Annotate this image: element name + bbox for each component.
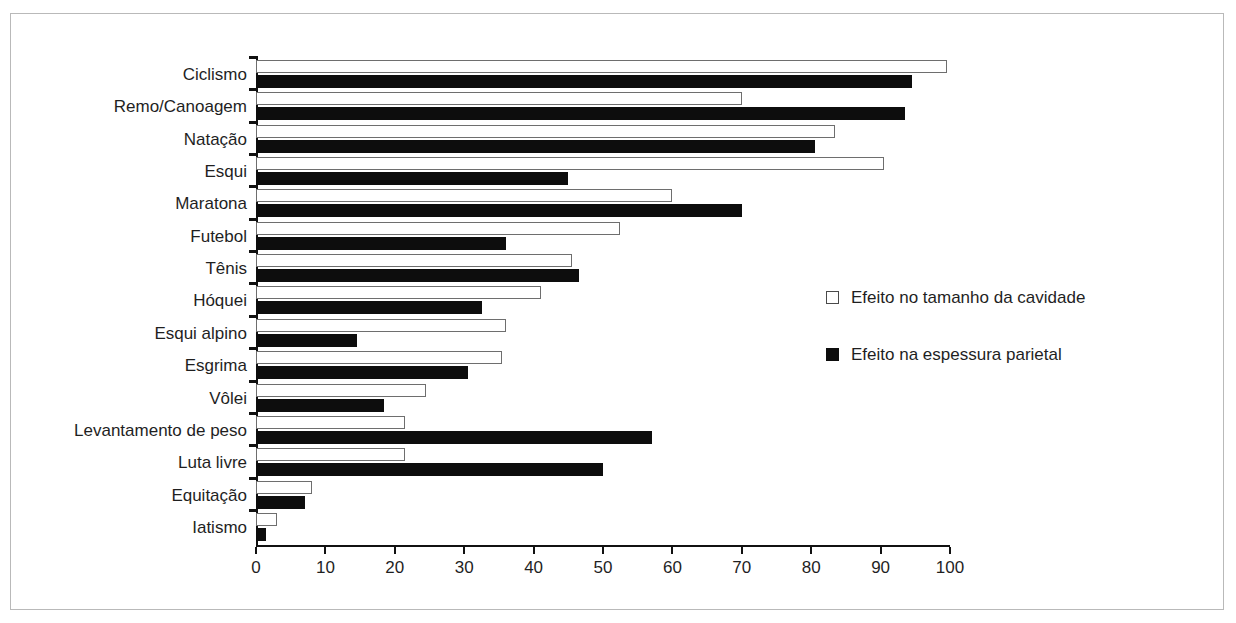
x-axis-tick	[255, 547, 257, 554]
legend-item-2: Efeito na espessura parietal	[826, 346, 1062, 363]
bar-cavity-15	[256, 513, 277, 526]
x-axis-tick	[324, 547, 326, 554]
bar-wall-3	[256, 140, 815, 153]
category-label-13: Luta livre	[178, 454, 247, 471]
category-label-2: Remo/Canoagem	[114, 98, 247, 115]
bar-cavity-13	[256, 448, 405, 461]
x-axis-tick	[394, 547, 396, 554]
category-label-6: Futebol	[190, 228, 247, 245]
x-axis-tick	[533, 547, 535, 554]
bar-cavity-2	[256, 92, 742, 105]
bar-wall-7	[256, 269, 579, 282]
x-axis-tick	[810, 547, 812, 554]
x-axis-tick-label-10: 90	[871, 559, 890, 576]
legend-swatch-cavity-icon	[826, 291, 839, 304]
bar-wall-12	[256, 431, 652, 444]
x-axis-tick-label-2: 10	[316, 559, 335, 576]
bar-cavity-10	[256, 351, 502, 364]
category-label-3: Natação	[184, 131, 247, 148]
bar-wall-13	[256, 463, 603, 476]
category-label-14: Equitação	[171, 487, 247, 504]
x-axis-tick	[602, 547, 604, 554]
x-axis-tick	[671, 547, 673, 554]
bar-cavity-3	[256, 125, 835, 138]
category-label-15: Iatismo	[192, 519, 247, 536]
bar-cavity-5	[256, 189, 672, 202]
category-axis-labels: CiclismoRemo/CanoagemNataçãoEsquiMaraton…	[11, 14, 247, 611]
x-axis-tick-label-4: 30	[455, 559, 474, 576]
chart-figure-frame: CiclismoRemo/CanoagemNataçãoEsquiMaraton…	[10, 13, 1224, 610]
bar-cavity-4	[256, 157, 884, 170]
chart-legend: Efeito no tamanho da cavidadeEfeito na e…	[826, 289, 1166, 399]
category-label-1: Ciclismo	[183, 66, 247, 83]
bar-wall-11	[256, 399, 384, 412]
bar-wall-1	[256, 75, 912, 88]
legend-label-1: Efeito no tamanho da cavidade	[851, 289, 1085, 306]
x-axis-tick	[880, 547, 882, 554]
category-label-7: Tênis	[205, 260, 247, 277]
bar-cavity-12	[256, 416, 405, 429]
x-axis-tick-label-8: 70	[732, 559, 751, 576]
bar-cavity-8	[256, 286, 541, 299]
x-axis-tick-label-6: 50	[594, 559, 613, 576]
legend-label-2: Efeito na espessura parietal	[851, 346, 1062, 363]
x-axis-tick-label-9: 80	[802, 559, 821, 576]
category-label-12: Levantamento de peso	[74, 422, 247, 439]
x-axis-tick-label-7: 60	[663, 559, 682, 576]
legend-item-1: Efeito no tamanho da cavidade	[826, 289, 1085, 306]
bar-wall-14	[256, 496, 305, 509]
bar-cavity-9	[256, 319, 506, 332]
bar-wall-2	[256, 107, 905, 120]
category-label-9: Esqui alpino	[154, 325, 247, 342]
bar-cavity-6	[256, 222, 620, 235]
bar-wall-6	[256, 237, 506, 250]
category-label-4: Esqui	[204, 163, 247, 180]
x-axis-tick-label-1: 0	[251, 559, 260, 576]
bar-wall-4	[256, 172, 568, 185]
bar-cavity-11	[256, 384, 426, 397]
chart-plot-area: CiclismoRemo/CanoagemNataçãoEsquiMaraton…	[11, 14, 1225, 611]
x-axis-tick-label-3: 20	[385, 559, 404, 576]
category-label-10: Esgrima	[185, 357, 247, 374]
bar-cavity-14	[256, 481, 312, 494]
bar-wall-8	[256, 301, 482, 314]
category-label-8: Hóquei	[193, 292, 247, 309]
category-label-5: Maratona	[175, 195, 247, 212]
legend-swatch-wall-icon	[826, 348, 839, 361]
bar-wall-10	[256, 366, 468, 379]
x-axis-tick	[949, 547, 951, 554]
bar-wall-5	[256, 204, 742, 217]
bar-cavity-1	[256, 60, 947, 73]
bar-wall-9	[256, 334, 357, 347]
x-axis-tick-label-11: 100	[936, 559, 964, 576]
x-axis-tick-label-5: 40	[524, 559, 543, 576]
category-label-11: Vôlei	[209, 390, 247, 407]
x-axis-tick	[741, 547, 743, 554]
bar-cavity-7	[256, 254, 572, 267]
x-axis-tick	[463, 547, 465, 554]
bar-wall-15	[256, 528, 266, 541]
